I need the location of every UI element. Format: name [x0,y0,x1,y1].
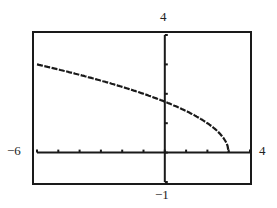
xmin-label: −6 [7,144,21,157]
curve [37,64,229,152]
axes [37,35,250,182]
plot-area [0,0,277,208]
ymax-label: 4 [160,10,167,23]
xmax-label: 4 [259,144,266,157]
ymin-label: −1 [155,188,169,201]
